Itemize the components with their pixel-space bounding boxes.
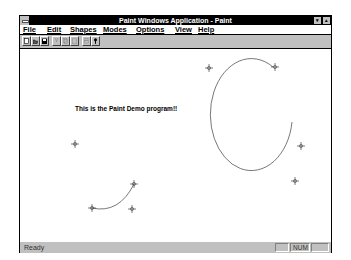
help-button[interactable] [91,36,100,46]
status-panel-caps [275,243,289,252]
status-bar: Ready NUM [20,242,331,253]
window-title: Paint Windows Application - Paint [119,16,232,25]
menu-bar: File Edit Shapes Modes Options View Help [20,25,331,35]
status-text: Ready [24,242,44,253]
minimize-button[interactable]: ▾ [313,16,322,25]
help-question-icon [93,38,98,44]
maximize-button[interactable]: ▴ [322,16,331,25]
title-bar[interactable]: Paint Windows Application - Paint ▾ ▴ [20,16,331,25]
drawing-canvas[interactable]: This is the Paint Demo program!! [20,49,331,243]
new-file-button[interactable] [22,36,31,46]
control-point-icon [130,180,138,188]
open-folder-icon [33,38,38,44]
copy-button[interactable] [61,36,70,46]
control-point-icon [128,205,136,213]
control-point-icon [71,140,79,148]
menu-file[interactable]: File [23,25,36,34]
save-file-button[interactable] [40,36,49,46]
maximize-icon: ▴ [325,17,328,23]
menu-view[interactable]: View [175,25,192,34]
demo-text: This is the Paint Demo program!! [75,105,177,112]
control-point-icon [291,177,299,185]
canvas-drawing [20,49,331,242]
save-disk-icon [42,38,47,44]
paint-window: Paint Windows Application - Paint ▾ ▴ Fi… [19,15,332,253]
menu-options[interactable]: Options [136,25,164,34]
status-panel-num: NUM [290,243,310,252]
copy-icon [63,38,68,44]
control-point-icon [205,64,213,72]
control-point-icon [271,63,279,71]
menu-modes[interactable]: Modes [103,25,127,34]
menu-edit[interactable]: Edit [47,25,61,34]
control-point-icon [297,142,305,150]
large-arc [210,59,292,171]
menu-help[interactable]: Help [198,25,214,34]
print-button[interactable] [82,36,91,46]
printer-icon [84,38,89,44]
toolbar [20,35,331,49]
status-panel-scroll [311,243,329,252]
scissors-icon [54,38,59,44]
menu-shapes[interactable]: Shapes [70,25,97,34]
open-file-button[interactable] [31,36,40,46]
paste-icon [72,38,77,44]
new-file-icon [24,38,29,44]
minimize-icon: ▾ [316,17,319,23]
paste-button[interactable] [70,36,79,46]
cut-button[interactable] [52,36,61,46]
control-point-icon [88,204,96,212]
small-arc [92,184,134,209]
system-menu-button[interactable] [20,16,30,25]
